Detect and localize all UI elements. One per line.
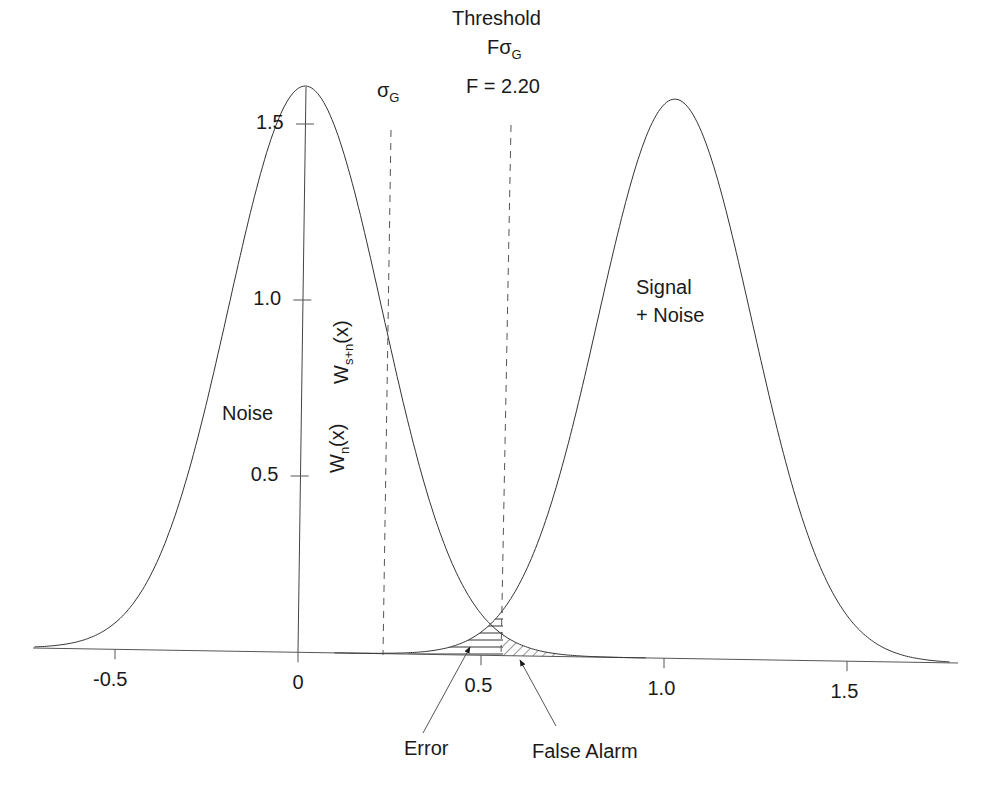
- x-tick-label: -0.5: [93, 669, 127, 689]
- threshold-formula: FσG: [487, 37, 522, 57]
- error-arrow: [423, 647, 470, 733]
- x-tick-label: 1.5: [831, 681, 859, 701]
- x-tick-label: 0.5: [465, 675, 493, 695]
- f-value-label: F = 2.20: [466, 76, 540, 96]
- sigma-g-sub: G: [389, 90, 399, 105]
- false-alarm-arrow: [520, 660, 556, 726]
- distribution-chart: [0, 0, 993, 793]
- false-alarm-label: False Alarm: [532, 741, 638, 761]
- wsn-sub: s+n: [341, 344, 356, 365]
- sigma-g-line: [383, 130, 391, 655]
- sigma-g-main: σ: [377, 79, 389, 101]
- wn-sub: n: [337, 447, 352, 454]
- threshold-title: Threshold: [452, 8, 541, 28]
- error-region: [408, 610, 503, 656]
- error-hatch: [408, 610, 503, 656]
- y-tick-label: 1.5: [256, 112, 284, 132]
- signal-label-line1: Signal: [636, 277, 692, 297]
- wn-label: Wn(x): [326, 424, 349, 473]
- noise-label: Noise: [222, 403, 273, 423]
- x-tick-label: 1.0: [648, 678, 676, 698]
- error-label: Error: [404, 738, 448, 758]
- y-axis-ticks: [291, 124, 314, 476]
- wn-arg: (x): [326, 424, 348, 447]
- x-tick-label: 0: [293, 672, 304, 692]
- signal-noise-curve: [335, 99, 950, 662]
- threshold-formula-main: Fσ: [487, 36, 512, 58]
- threshold-line: [501, 125, 511, 658]
- y-tick-label: 0.5: [251, 464, 279, 484]
- signal-label-line2: + Noise: [636, 305, 704, 325]
- wn-main: W: [326, 454, 348, 473]
- wsn-main: W: [330, 365, 352, 384]
- wsn-arg: (x): [330, 320, 352, 343]
- y-tick-label: 1.0: [253, 288, 281, 308]
- y-axis: [298, 87, 306, 652]
- threshold-formula-sub: G: [512, 47, 522, 62]
- sigma-g-label: σG: [377, 80, 399, 100]
- wsn-label: Ws+n(x): [330, 320, 353, 384]
